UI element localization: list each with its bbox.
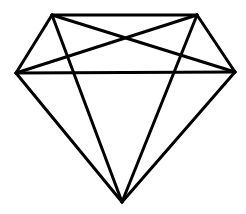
diamond-icon [0,0,246,214]
girdle-edge [16,72,235,73]
diamond-figure [0,0,246,214]
